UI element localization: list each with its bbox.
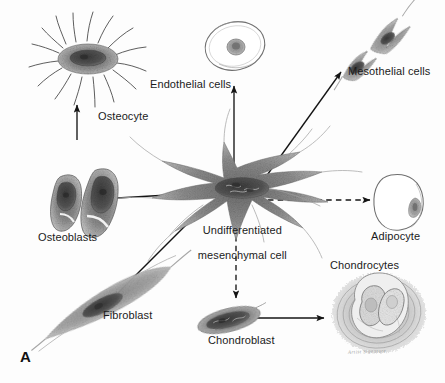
differentiation-diagram-figure: Osteocyte Osteoblasts Endothelial cells …: [0, 0, 445, 383]
cell-art-chondrocytes: [332, 272, 426, 353]
diagram-artwork: [0, 0, 445, 383]
label-osteocyte: Osteocyte: [98, 110, 148, 123]
label-osteoblasts: Osteoblasts: [38, 231, 97, 244]
label-fibroblast: Fibroblast: [103, 309, 152, 322]
cell-art-mesothelial-cells: [320, 0, 433, 94]
cell-art-chondroblast: [195, 299, 270, 339]
panel-letter: A: [20, 348, 31, 365]
label-mesothelial-cells: Mesothelial cells: [348, 65, 430, 78]
label-chondrocytes: Chondrocytes: [330, 259, 399, 272]
label-chondroblast: Chondroblast: [208, 334, 275, 347]
label-adipocyte: Adipocyte: [371, 230, 420, 243]
label-undifferentiated-mesenchymal-cell: Undifferentiated mesenchymal cell: [172, 211, 300, 274]
cell-art-endothelial-cell: [201, 16, 270, 75]
label-endothelial-cells: Endothelial cells: [150, 78, 231, 91]
cell-art-osteoblasts: [51, 169, 119, 238]
label-line-1: Undifferentiated: [203, 224, 282, 236]
label-line-2: mesenchymal cell: [198, 249, 287, 261]
cell-art-osteocyte: [29, 12, 146, 107]
cell-art-adipocyte: [374, 174, 423, 230]
